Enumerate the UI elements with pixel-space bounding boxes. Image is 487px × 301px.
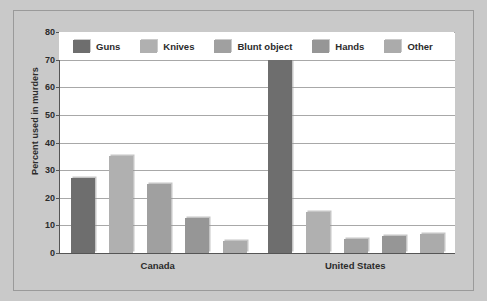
bar [306,212,330,253]
legend-swatch-icon [312,40,329,53]
y-axis-tick-label: 0 [50,248,55,258]
legend-label: Hands [335,41,364,52]
legend-swatch-icon [214,40,231,53]
gridline [60,115,455,116]
legend-label: Blunt object [237,41,292,52]
legend-item[interactable]: Other [384,40,432,53]
y-axis-tick-label: 20 [45,193,55,203]
legend-swatch-icon [73,40,90,53]
plot-area: 80706050403020100 [59,32,455,254]
legend-swatch-icon [384,40,401,53]
y-axis-tick-label: 30 [45,165,55,175]
y-axis-tick-mark [56,170,60,171]
y-axis-tick-mark [56,143,60,144]
legend-label: Other [407,41,432,52]
legend-label: Knives [163,41,194,52]
legend-label: Guns [96,41,120,52]
y-axis-tick-mark [56,115,60,116]
x-axis-group-label: United States [325,260,386,271]
y-axis-tick-mark [56,253,60,254]
legend-item[interactable]: Knives [140,40,194,53]
legend-item[interactable]: Guns [73,40,120,53]
y-axis-tick-label: 80 [45,27,55,37]
legend-item[interactable]: Blunt object [214,40,292,53]
bar [382,236,406,253]
legend-swatch-icon [140,40,157,53]
bar [147,184,171,253]
gridline [60,143,455,144]
y-axis-title: Percent used in murders [30,51,40,191]
chart-frame: Percent used in murders 8070605040302010… [13,10,474,291]
legend: GunsKnivesBlunt objectHandsOther [59,32,454,60]
x-axis-group-label: Canada [141,260,175,271]
legend-item[interactable]: Hands [312,40,364,53]
bar [223,241,247,253]
gridline [60,87,455,88]
y-axis-tick-mark [56,198,60,199]
bar [420,234,444,253]
bar-chart: Percent used in murders 8070605040302010… [14,11,475,292]
bar [109,156,133,253]
y-axis-tick-mark [56,225,60,226]
bar [344,239,368,253]
y-axis-tick-label: 60 [45,82,55,92]
y-axis-tick-mark [56,87,60,88]
y-axis-tick-label: 50 [45,110,55,120]
bar [268,60,292,253]
bar [185,218,209,253]
bar [71,178,95,253]
y-axis-tick-label: 70 [45,55,55,65]
y-axis-tick-label: 40 [45,138,55,148]
y-axis-tick-label: 10 [45,220,55,230]
